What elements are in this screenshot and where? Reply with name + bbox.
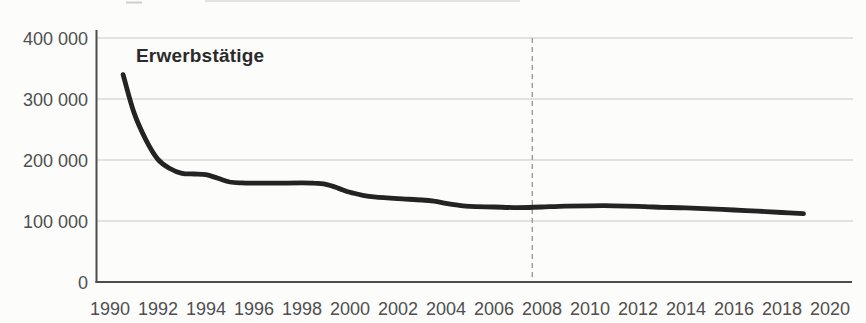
y-tick-label: 400 000 [23, 29, 88, 49]
y-tick-label: 200 000 [23, 151, 88, 171]
y-tick-label: 100 000 [23, 212, 88, 232]
x-tick-label: 2006 [474, 299, 514, 319]
employment-line-chart: 400 000300 000200 000100 000019901992199… [0, 0, 866, 323]
x-tick-label: 2010 [570, 299, 610, 319]
x-tick-label: 2018 [762, 299, 802, 319]
series-label: Erwerbstätige [136, 45, 264, 67]
x-tick-label: 1994 [186, 299, 226, 319]
x-tick-label: 1998 [282, 299, 322, 319]
x-tick-label: 2000 [330, 299, 370, 319]
x-tick-label: 2002 [378, 299, 418, 319]
axes [96, 30, 853, 283]
x-tick-label: 2004 [426, 299, 466, 319]
x-tick-label: 2014 [666, 299, 706, 319]
x-tick-labels: 1990199219941996199820002002200420062008… [90, 299, 850, 319]
data-line [123, 75, 803, 214]
x-tick-label: 2008 [522, 299, 562, 319]
chart-canvas: 400 000300 000200 000100 000019901992199… [0, 0, 866, 323]
x-tick-label: 2016 [714, 299, 754, 319]
x-tick-label: 1992 [138, 299, 178, 319]
x-tick-label: 2012 [618, 299, 658, 319]
y-tick-label: 300 000 [23, 90, 88, 110]
x-tick-label: 1996 [234, 299, 274, 319]
scan-crop-artifacts [126, 1, 520, 3]
y-tick-labels: 400 000300 000200 000100 0000 [23, 29, 88, 293]
x-tick-label: 1990 [90, 299, 130, 319]
x-tick-label: 2020 [810, 299, 850, 319]
y-tick-label: 0 [78, 273, 88, 293]
